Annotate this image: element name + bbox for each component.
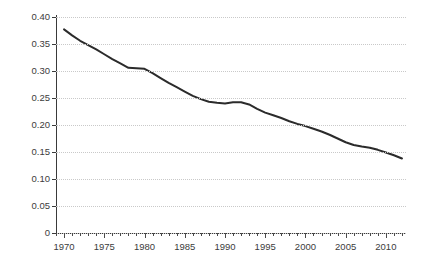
x-axis-tick-label: 1990 [214, 241, 235, 252]
x-tick-minor [217, 233, 218, 236]
x-tick-minor [161, 233, 162, 236]
x-tick-major [346, 233, 347, 238]
y-axis-labels: 00.050.100.150.200.250.300.350.40 [0, 0, 50, 268]
x-tick-minor [289, 233, 290, 236]
x-axis-tick-label: 2000 [295, 241, 316, 252]
x-tick-major [64, 233, 65, 238]
y-tick [52, 44, 56, 45]
x-axis-tick-label: 1980 [134, 241, 155, 252]
x-axis-tick-label: 2005 [335, 241, 356, 252]
y-axis-tick-label: 0.05 [4, 201, 50, 211]
x-tick-minor [394, 233, 395, 236]
x-tick-minor [273, 233, 274, 236]
x-tick-minor [362, 233, 363, 236]
x-tick-major [265, 233, 266, 238]
y-tick [52, 206, 56, 207]
x-tick-minor [177, 233, 178, 236]
x-tick-minor [120, 233, 121, 236]
x-tick-minor [378, 233, 379, 236]
y-tick [52, 152, 56, 153]
x-tick-minor [402, 233, 403, 236]
x-tick-minor [297, 233, 298, 236]
x-tick-minor [209, 233, 210, 236]
x-tick-minor [56, 233, 57, 236]
y-axis-tick-label: 0.35 [4, 39, 50, 49]
x-tick-minor [281, 233, 282, 236]
x-tick-minor [193, 233, 194, 236]
x-tick-major [225, 233, 226, 238]
gridline-y [56, 71, 406, 72]
y-axis-tick-label: 0.40 [4, 12, 50, 22]
x-axis-tick-label: 1975 [94, 241, 115, 252]
gridline-y [56, 179, 406, 180]
gridline-y [56, 152, 406, 153]
x-tick-minor [257, 233, 258, 236]
y-axis-tick-label: 0.10 [4, 174, 50, 184]
y-axis-tick-label: 0.30 [4, 66, 50, 76]
x-tick-minor [354, 233, 355, 236]
x-tick-minor [80, 233, 81, 236]
x-tick-major [386, 233, 387, 238]
x-axis-tick-label: 1995 [255, 241, 276, 252]
x-tick-minor [169, 233, 170, 236]
y-axis-tick-label: 0.25 [4, 93, 50, 103]
x-tick-minor [241, 233, 242, 236]
plot-area [56, 17, 406, 233]
x-tick-minor [96, 233, 97, 236]
x-axis-tick-label: 1970 [53, 241, 74, 252]
x-axis-tick-label: 1985 [174, 241, 195, 252]
x-tick-minor [322, 233, 323, 236]
chart-container: 00.050.100.150.200.250.300.350.40 197019… [0, 0, 421, 268]
x-tick-minor [249, 233, 250, 236]
x-tick-minor [153, 233, 154, 236]
x-tick-minor [313, 233, 314, 236]
y-tick [52, 71, 56, 72]
x-tick-minor [88, 233, 89, 236]
y-tick [52, 125, 56, 126]
x-tick-major [185, 233, 186, 238]
x-tick-minor [330, 233, 331, 236]
x-tick-minor [136, 233, 137, 236]
x-tick-minor [370, 233, 371, 236]
x-tick-minor [201, 233, 202, 236]
y-axis-tick-label: 0 [4, 228, 50, 238]
x-tick-minor [128, 233, 129, 236]
y-axis-tick-label: 0.20 [4, 120, 50, 130]
x-tick-minor [72, 233, 73, 236]
gridline-y [56, 125, 406, 126]
x-tick-major [305, 233, 306, 238]
gridline-y [56, 44, 406, 45]
x-tick-minor [338, 233, 339, 236]
y-axis-tick-label: 0.15 [4, 147, 50, 157]
gridline-y [56, 206, 406, 207]
x-tick-major [104, 233, 105, 238]
x-axis-tick-label: 2010 [375, 241, 396, 252]
y-tick [52, 98, 56, 99]
gridline-y [56, 98, 406, 99]
y-tick [52, 17, 56, 18]
x-tick-minor [112, 233, 113, 236]
line-series-1 [64, 29, 402, 158]
x-tick-minor [233, 233, 234, 236]
y-tick [52, 179, 56, 180]
x-tick-major [145, 233, 146, 238]
gridline-y [56, 17, 406, 18]
